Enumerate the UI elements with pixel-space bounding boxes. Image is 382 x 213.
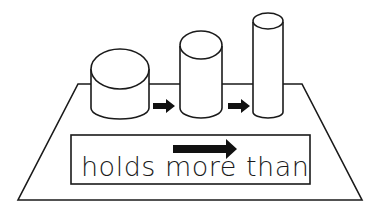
label-word-than: than [246,151,309,183]
label-word-holds: holds [81,151,156,183]
cylinder-short-wide [91,49,149,119]
cylinder-medium [180,31,222,118]
cylinder-tall-narrow [253,13,283,118]
label-word-more: more [165,151,237,183]
